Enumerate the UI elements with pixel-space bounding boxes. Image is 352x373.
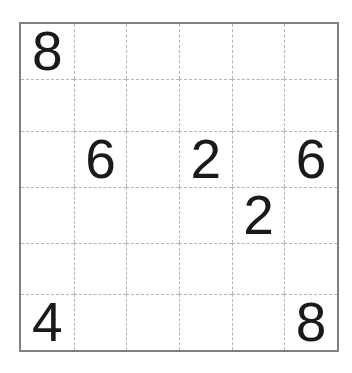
grid-cell-r1c3[interactable]	[126, 24, 179, 79]
grid-cell-r5c2[interactable]	[74, 243, 127, 295]
grid-cell-r6c3[interactable]	[126, 294, 179, 350]
grid-cell-r4c4[interactable]	[179, 187, 232, 243]
grid-cell-r5c6[interactable]	[284, 243, 337, 295]
grid-cell-r2c1[interactable]	[21, 79, 74, 131]
cell-value: 4	[32, 295, 63, 350]
grid-cell-r3c3[interactable]	[126, 131, 179, 187]
grid-cell-r6c4[interactable]	[179, 294, 232, 350]
grid-cell-r3c1[interactable]	[21, 131, 74, 187]
grid-cell-r3c5[interactable]	[232, 131, 285, 187]
grid-cell-r4c6[interactable]	[284, 187, 337, 243]
cell-value: 2	[243, 188, 274, 243]
grid-cell-r5c1[interactable]	[21, 243, 74, 295]
puzzle-board: 8 6 2 6 2 4 8	[19, 22, 339, 352]
grid-cell-r6c1[interactable]: 4	[21, 294, 74, 350]
grid-cell-r1c4[interactable]	[179, 24, 232, 79]
cell-value: 6	[296, 132, 327, 187]
grid-cell-r2c6[interactable]	[284, 79, 337, 131]
grid-cell-r4c5[interactable]: 2	[232, 187, 285, 243]
grid-cell-r4c3[interactable]	[126, 187, 179, 243]
cell-value: 6	[85, 132, 116, 187]
grid-cell-r4c1[interactable]	[21, 187, 74, 243]
grid-cell-r1c5[interactable]	[232, 24, 285, 79]
grid-cell-r1c6[interactable]	[284, 24, 337, 79]
grid-cell-r6c5[interactable]	[232, 294, 285, 350]
grid-cell-r2c2[interactable]	[74, 79, 127, 131]
grid-cell-r2c3[interactable]	[126, 79, 179, 131]
grid-cell-r5c3[interactable]	[126, 243, 179, 295]
cell-value: 8	[32, 24, 63, 79]
grid-cell-r6c6[interactable]: 8	[284, 294, 337, 350]
grid-cell-r6c2[interactable]	[74, 294, 127, 350]
cell-value: 8	[296, 295, 327, 350]
grid-cell-r3c4[interactable]: 2	[179, 131, 232, 187]
grid-cell-r5c4[interactable]	[179, 243, 232, 295]
grid-cell-r3c2[interactable]: 6	[74, 131, 127, 187]
grid-cell-r1c1[interactable]: 8	[21, 24, 74, 79]
grid-cell-r2c5[interactable]	[232, 79, 285, 131]
grid-cell-r5c5[interactable]	[232, 243, 285, 295]
grid-cell-r4c2[interactable]	[74, 187, 127, 243]
grid-cell-r3c6[interactable]: 6	[284, 131, 337, 187]
cell-value: 2	[191, 132, 222, 187]
grid-cell-r1c2[interactable]	[74, 24, 127, 79]
grid-cell-r2c4[interactable]	[179, 79, 232, 131]
